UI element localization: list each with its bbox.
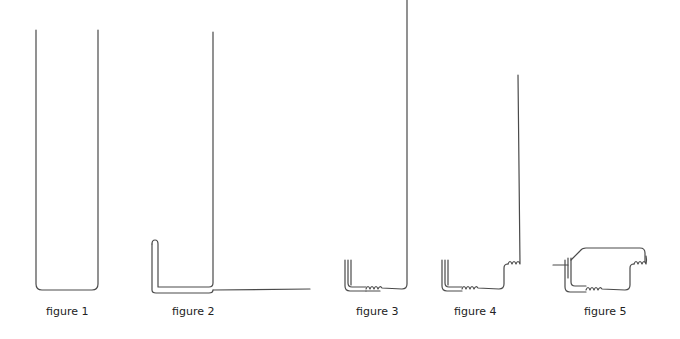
- diagram-stage: figure 1 figure 2 figure 3 figure 4 figu…: [0, 0, 680, 339]
- figure-3-caption: figure 3: [356, 305, 398, 318]
- figure-1-wire: [36, 30, 98, 290]
- figure-5-caption: figure 5: [584, 305, 626, 318]
- figure-1-caption: figure 1: [46, 305, 88, 318]
- figure-4-caption: figure 4: [454, 305, 496, 318]
- figure-3-wire: [345, 0, 407, 291]
- figure-2-wire: [152, 32, 310, 293]
- figure-2-caption: figure 2: [172, 305, 214, 318]
- wire-figures-drawing: [0, 0, 680, 339]
- figure-5-wire: [553, 248, 647, 292]
- figure-4-wire: [442, 75, 520, 291]
